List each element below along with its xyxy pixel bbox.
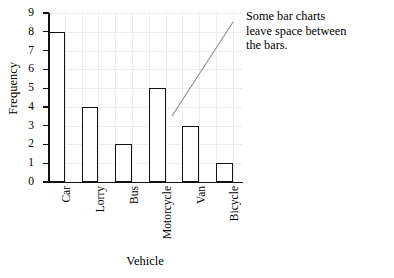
y-axis-tick [43,88,49,89]
x-axis-category-label: Van [196,186,208,204]
y-axis-tick-label: 2 [20,138,34,150]
bars-container [48,13,242,182]
y-axis-tick [43,106,49,107]
y-axis-tick-label: 8 [20,26,34,38]
x-axis-category-label: Lorry [95,186,107,212]
bar [115,144,132,182]
y-axis-tick-label: 6 [20,63,34,75]
bar [216,163,233,182]
y-axis-title: Frequency [7,62,20,115]
y-axis-tick-label: 3 [20,120,34,132]
y-axis-tick [43,144,49,145]
x-axis-category-label: Bus [129,186,141,204]
x-axis-category-label: Car [61,186,73,203]
y-axis-tick-label: 5 [20,82,34,94]
y-axis-tick [43,125,49,126]
bar [48,32,65,182]
y-axis-tick [43,12,49,13]
bar-chart-figure: 0123456789 CarLorryBusMotorcycleVanBicyc… [0,0,394,278]
x-axis-line [48,182,243,184]
annotation-text: Some bar charts leave space between the … [246,9,392,53]
x-axis-title: Vehicle [0,255,290,268]
bar [82,107,99,182]
x-axis-category-label: Motorcycle [162,186,174,239]
y-axis-tick-label: 9 [20,7,34,19]
annotation-line-3: the bars. [246,38,392,53]
y-axis-tick [43,50,49,51]
y-axis-tick [43,181,49,182]
y-axis-tick-label: 4 [20,101,34,113]
annotation-line-2: leave space between [246,24,392,39]
y-axis-tick-label: 0 [20,176,34,188]
x-axis-category-label: Bicycle [229,186,241,221]
y-axis-tick-label: 1 [20,157,34,169]
y-axis-tick-label: 7 [20,45,34,57]
bar [149,88,166,182]
annotation-line-1: Some bar charts [246,9,392,24]
bar [182,126,199,182]
y-axis-tick [43,31,49,32]
y-axis-tick [43,69,49,70]
y-axis-line [48,13,50,183]
y-axis-tick [43,163,49,164]
